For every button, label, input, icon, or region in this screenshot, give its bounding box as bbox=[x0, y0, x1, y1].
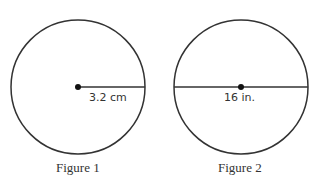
figure-2-caption: Figure 2 bbox=[218, 160, 262, 176]
figures-canvas bbox=[0, 0, 315, 179]
figure-1-diagram bbox=[11, 20, 145, 154]
radius-label: 3.2 cm bbox=[89, 91, 127, 104]
figure-2-diagram bbox=[174, 20, 308, 154]
diameter-label: 16 in. bbox=[224, 91, 255, 104]
figure-1-caption: Figure 1 bbox=[56, 160, 100, 176]
center-point-1 bbox=[75, 84, 81, 90]
center-point-2 bbox=[238, 84, 244, 90]
